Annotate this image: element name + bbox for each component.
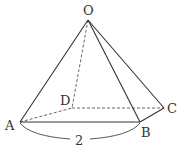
vertex-label-C: C	[167, 101, 177, 116]
vertex-label-O: O	[83, 3, 94, 18]
pyramid-diagram: O A B C D 2	[0, 0, 181, 149]
dimension-label-AB: 2	[75, 133, 83, 148]
vertex-label-D: D	[60, 93, 70, 108]
edge-OA	[20, 20, 88, 122]
edge-OD	[72, 20, 88, 108]
vertex-label-B: B	[141, 125, 151, 140]
edge-BC	[140, 108, 164, 122]
pyramid-svg: O A B C D 2	[0, 0, 181, 149]
vertex-label-A: A	[4, 118, 15, 133]
